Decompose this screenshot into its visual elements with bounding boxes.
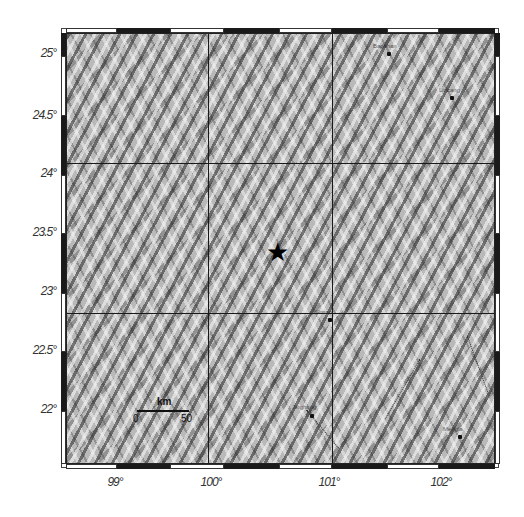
city-label: Baoshan — [373, 43, 397, 49]
scale-end: 50 — [181, 413, 192, 424]
frame-bar — [66, 464, 117, 469]
scale-line — [137, 410, 189, 412]
city-marker[interactable] — [387, 52, 391, 56]
frame-bar — [387, 464, 439, 469]
frame-bar — [495, 411, 500, 464]
frame-bar — [224, 464, 279, 469]
lat-label-23: 23° — [6, 284, 56, 298]
frame-bar — [332, 464, 387, 469]
lat-label-22-5: 22.5° — [6, 343, 56, 357]
city-marker[interactable] — [458, 435, 462, 439]
city-label: Mengla — [443, 426, 463, 432]
scale-start: 0 — [133, 413, 139, 424]
lat-label-25: 25° — [6, 46, 56, 60]
city-marker[interactable] — [310, 414, 314, 418]
river — [467, 336, 488, 393]
lat-label-24-5: 24.5° — [6, 108, 56, 122]
frame-bar — [495, 352, 500, 411]
gridline-lon-101 — [332, 34, 333, 463]
lon-label-101: 101° — [304, 475, 354, 489]
frame-bar — [495, 234, 500, 293]
gridline-lat-24 — [67, 163, 494, 164]
lon-label-99: 99° — [90, 475, 140, 489]
frame-bar — [495, 56, 500, 116]
city-label: Simao — [315, 309, 332, 315]
frame-bar — [495, 116, 500, 175]
city-marker[interactable] — [328, 318, 332, 322]
lon-label-100: 100° — [186, 475, 236, 489]
city-marker[interactable] — [450, 96, 454, 100]
river — [385, 358, 421, 419]
frame-bar — [117, 464, 170, 469]
city-label: Lincang — [439, 87, 460, 93]
lat-label-22: 22° — [6, 402, 56, 416]
frame-bar — [495, 175, 500, 234]
scale-unit: km — [157, 396, 171, 407]
lat-label-24: 24° — [6, 166, 56, 180]
frame-bar — [279, 464, 332, 469]
lat-label-23-5: 23.5° — [6, 225, 56, 239]
gridline-lon-100 — [208, 34, 209, 463]
city-label: Jinghong — [292, 404, 316, 410]
star-icon[interactable]: ★ — [266, 239, 289, 265]
frame-bar — [495, 293, 500, 352]
frame-bar — [170, 464, 224, 469]
relief-map[interactable]: Baoshan Lincang Simao Jinghong Mengla ★ … — [66, 33, 495, 464]
lon-label-102: 102° — [416, 475, 466, 489]
frame-bar — [495, 33, 500, 56]
frame-bar — [439, 464, 495, 469]
gridline-lat-23 — [67, 313, 494, 314]
